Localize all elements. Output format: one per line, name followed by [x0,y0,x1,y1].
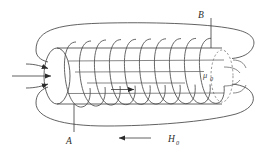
label-mu-subscript: 0 [210,75,214,82]
label-mu0-group: μ 0 [202,70,214,82]
label-H0-group: H 0 [119,134,180,146]
exterior-return-lines [224,60,246,93]
label-A: A [65,136,72,146]
label-B-group: B [198,10,211,48]
label-H: H [167,134,176,144]
diagram-canvas: B A μ 0 H 0 [0,0,267,152]
label-mu: μ [202,70,207,80]
physics-figure-solenoid: B A μ 0 H 0 [0,0,267,152]
incoming-field-arrows [12,64,51,88]
label-B: B [198,10,204,20]
label-H-subscript: 0 [176,139,180,146]
solenoid-coil [64,38,224,107]
label-A-group: A [65,104,74,146]
outer-flux-loop [36,23,254,126]
